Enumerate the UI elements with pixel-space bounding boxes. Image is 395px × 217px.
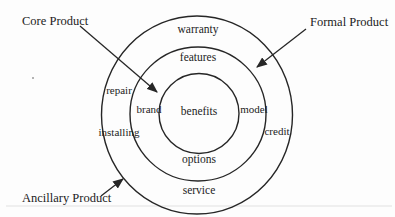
diagram-canvas: warranty repair installing credit servic… [0,0,395,217]
label-credit: credit [264,125,289,137]
label-brand: brand [136,103,162,115]
ancillary-product-label: Ancillary Product [22,191,112,205]
label-warranty: warranty [178,23,219,36]
label-service: service [183,184,216,196]
label-benefits: benefits [181,105,218,117]
ancillary-product-arrow [101,179,123,196]
core-product-label: Core Product [22,14,89,28]
label-installing: installing [99,126,140,138]
formal-product-label: Formal Product [310,15,389,29]
scan-speck [32,77,34,79]
core-product-arrow [80,26,157,92]
label-repair: repair [106,84,132,96]
label-options: options [182,153,216,166]
formal-product-arrow [257,29,306,67]
label-model: model [240,103,268,115]
product-levels-diagram: warranty repair installing credit servic… [0,0,395,217]
label-features: features [180,51,217,63]
